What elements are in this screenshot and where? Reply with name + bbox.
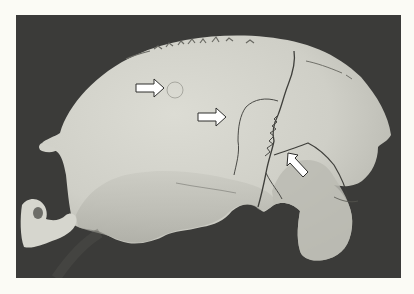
zygomatic-process <box>21 199 77 248</box>
skull-photograph <box>16 15 401 278</box>
photo-frame <box>16 15 401 278</box>
